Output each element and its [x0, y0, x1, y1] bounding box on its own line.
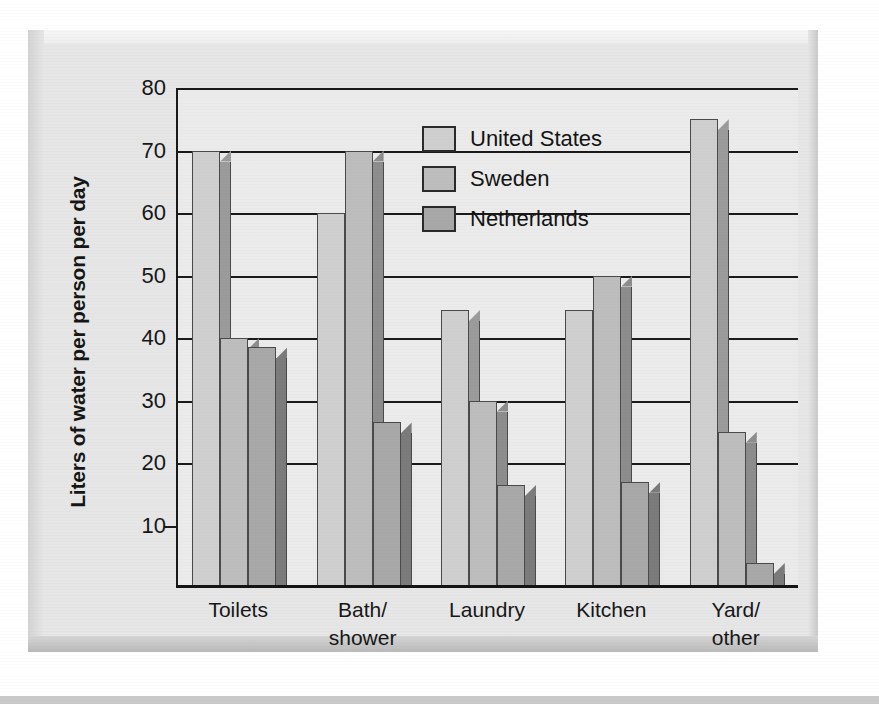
x-axis-label-line: other — [674, 624, 798, 652]
legend-item: Sweden — [422, 162, 682, 196]
bar — [345, 151, 373, 589]
legend-label: Netherlands — [470, 206, 589, 232]
x-axis-category-label: Bath/shower — [300, 596, 424, 652]
x-axis-label-line: Bath/ — [300, 596, 424, 624]
bar — [621, 482, 649, 588]
x-axis-label-line: shower — [300, 624, 424, 652]
bar — [192, 151, 220, 589]
bar-front-face — [621, 482, 649, 588]
x-axis-line — [176, 585, 798, 588]
x-axis-category-label: Laundry — [425, 596, 549, 624]
legend-item: United States — [422, 122, 682, 156]
page-bottom-rule — [0, 696, 879, 704]
bar — [718, 432, 746, 588]
bar — [565, 310, 593, 588]
bar-side-face — [276, 358, 287, 588]
y-tick-label: 60 — [142, 200, 166, 226]
legend: United StatesSwedenNetherlands — [422, 122, 682, 242]
x-axis-category-label: Toilets — [176, 596, 300, 624]
bar — [441, 310, 469, 588]
bar-front-face — [469, 401, 497, 589]
bar — [317, 213, 345, 588]
bar-front-face — [192, 151, 220, 589]
bar-front-face — [345, 151, 373, 589]
bar-front-face — [248, 347, 276, 588]
bar — [469, 401, 497, 589]
bar-side-face — [401, 433, 412, 588]
bar-front-face — [441, 310, 469, 588]
bar-front-face — [690, 119, 718, 588]
x-axis-category-label: Kitchen — [549, 596, 673, 624]
y-tick-label: 30 — [142, 388, 166, 414]
bar — [373, 422, 401, 588]
bar-front-face — [565, 310, 593, 588]
bar — [220, 338, 248, 588]
bar-front-face — [373, 422, 401, 588]
x-axis-label-line: Yard/ — [674, 596, 798, 624]
bar-side-face — [649, 493, 660, 588]
bar-front-face — [497, 485, 525, 588]
x-axis-label-line: Laundry — [425, 596, 549, 624]
y-tick-label: 50 — [142, 263, 166, 289]
legend-item: Netherlands — [422, 202, 682, 236]
bar-front-face — [718, 432, 746, 588]
legend-swatch — [422, 206, 456, 232]
y-axis-title: Liters of water per person per day — [66, 132, 90, 552]
legend-label: Sweden — [470, 166, 550, 192]
y-tick-label: 70 — [142, 138, 166, 164]
x-axis-category-label: Yard/other — [674, 596, 798, 652]
y-tick-label: 20 — [142, 450, 166, 476]
gridline — [176, 88, 798, 90]
bar-front-face — [317, 213, 345, 588]
bar — [690, 119, 718, 588]
y-axis-line — [176, 88, 178, 588]
x-axis-label-line: Toilets — [176, 596, 300, 624]
bar-chart: Liters of water per person per day 10203… — [28, 30, 818, 652]
y-tick-label: 40 — [142, 325, 166, 351]
x-axis-label-line: Kitchen — [549, 596, 673, 624]
bar-front-face — [220, 338, 248, 588]
legend-swatch — [422, 126, 456, 152]
y-tick-label: 80 — [142, 75, 166, 101]
legend-swatch — [422, 166, 456, 192]
x-axis-category-labels: ToiletsBath/showerLaundryKitchenYard/oth… — [176, 596, 798, 666]
y-tick-label: 10 — [142, 513, 166, 539]
bar — [248, 347, 276, 588]
bar — [497, 485, 525, 588]
bar — [593, 276, 621, 589]
legend-label: United States — [470, 126, 602, 152]
bar-side-face — [525, 496, 536, 588]
bar-front-face — [593, 276, 621, 589]
